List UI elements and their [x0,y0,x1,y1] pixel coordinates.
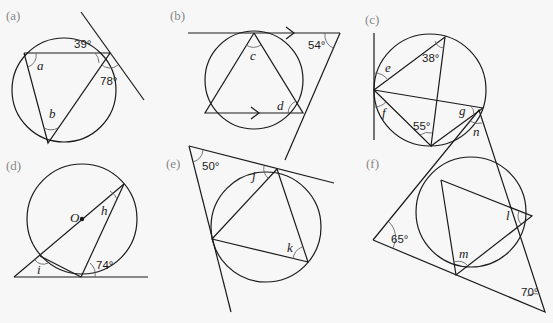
angle-54: 54° [308,39,325,51]
label-b: (b) [170,8,185,23]
angle-b: b [49,106,56,121]
center-point-o [80,217,84,221]
triangle-f-inner [441,180,532,275]
angle-n: n [473,124,480,139]
diagram-e: (e) 50° j k [166,146,334,312]
angle-a: a [37,58,44,73]
angle-m: m [459,246,468,261]
label-a: (a) [6,8,20,23]
diagrams-svg: (a) 39° 78° a b (b) 54° c d (c) [0,0,553,323]
chord-d2 [40,256,81,277]
angle-39: 39° [74,38,91,50]
diagram-c: (c) 38° 55° e f g [365,12,486,146]
label-c: (c) [365,12,379,27]
circle-b [205,31,303,129]
angle-d: d [277,98,284,113]
angle-78: 78° [100,75,117,87]
label-d: (d) [6,158,21,173]
angle-e: e [385,60,391,75]
angle-55: 55° [413,120,430,132]
angle-j: j [250,168,256,183]
circle-e [211,172,321,282]
triangle-e [212,169,308,262]
diagram-b: (b) 54° c d [170,8,340,160]
angle-i: i [37,262,41,277]
diagram-a: (a) 39° 78° a b [6,8,144,143]
angle-38: 38° [422,52,439,64]
angle-70: 70° [521,286,538,298]
label-e: (e) [166,156,180,171]
angle-f: f [382,105,388,120]
angle-k: k [287,240,293,255]
angle-50: 50° [202,160,219,172]
circle-theorem-diagrams: (a) 39° 78° a b (b) 54° c d (c) [0,0,553,323]
angle-74: 74° [96,259,113,271]
angle-g: g [459,103,466,118]
angle-65: 65° [391,233,408,245]
label-o: O [70,210,80,225]
diagram-d: (d) O h i 74° [6,158,148,277]
angle-c: c [250,48,256,63]
label-f: (f) [366,156,379,171]
angle-h: h [101,203,108,218]
angle-l: l [506,208,510,223]
